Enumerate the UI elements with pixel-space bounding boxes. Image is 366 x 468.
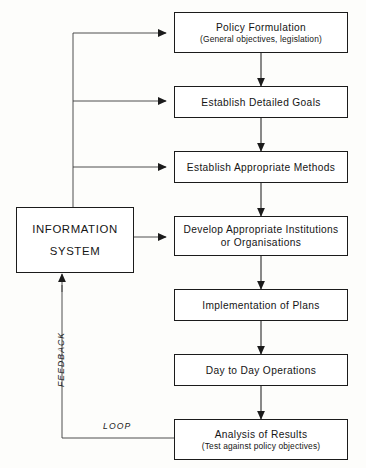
node-analysis-of-results-subtitle: (Test against policy objectives) (202, 441, 320, 452)
node-policy-formulation-title: Policy Formulation (216, 21, 306, 34)
node-implementation-of-plans-title: Implementation of Plans (202, 299, 319, 312)
node-day-to-day-operations[interactable]: Day to Day Operations (174, 354, 348, 386)
node-develop-appropriate-institutions-line2: or Organisations (221, 236, 301, 249)
node-develop-appropriate-institutions-title: Develop Appropriate Institutions (183, 223, 338, 236)
node-policy-formulation-subtitle: (General objectives, legislation) (200, 34, 322, 45)
node-establish-detailed-goals-title: Establish Detailed Goals (201, 96, 320, 109)
node-establish-detailed-goals[interactable]: Establish Detailed Goals (174, 86, 348, 118)
node-develop-appropriate-institutions[interactable]: Develop Appropriate Institutions or Orga… (174, 216, 348, 256)
node-analysis-of-results[interactable]: Analysis of Results (Test against policy… (174, 419, 348, 460)
flowchart-diagram: Policy Formulation (General objectives, … (0, 0, 366, 468)
node-day-to-day-operations-title: Day to Day Operations (206, 364, 316, 377)
edge-label-feedback: FEEDBACK (56, 332, 66, 387)
node-establish-appropriate-methods-title: Establish Appropriate Methods (187, 161, 335, 174)
node-information-system[interactable]: INFORMATION SYSTEM (16, 207, 134, 273)
node-establish-appropriate-methods[interactable]: Establish Appropriate Methods (174, 151, 348, 183)
edge-label-loop: LOOP (103, 421, 131, 431)
node-policy-formulation[interactable]: Policy Formulation (General objectives, … (174, 12, 348, 53)
node-information-system-line1: INFORMATION (32, 223, 117, 236)
node-analysis-of-results-title: Analysis of Results (215, 428, 308, 441)
feedback-loop-path (62, 285, 174, 438)
node-implementation-of-plans[interactable]: Implementation of Plans (174, 289, 348, 321)
node-information-system-line2: SYSTEM (50, 245, 100, 258)
